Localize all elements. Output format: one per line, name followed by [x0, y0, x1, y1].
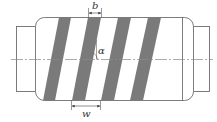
roller-diagram: b α w: [0, 0, 217, 122]
label-alpha: α: [98, 45, 105, 56]
left-shaft: [17, 27, 37, 92]
label-b: b: [92, 0, 98, 11]
label-w: w: [82, 108, 91, 119]
